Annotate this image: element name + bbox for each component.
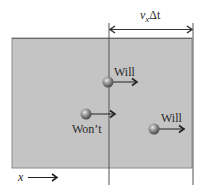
- interval-label: vxΔt: [140, 8, 161, 24]
- gray-region: [12, 38, 192, 168]
- particle-label: Will: [114, 65, 136, 79]
- diagram-canvas: vxΔt Will Won’t Will x: [0, 0, 208, 194]
- interval-arrow: [110, 26, 192, 33]
- x-axis-indicator: x: [17, 170, 57, 184]
- ball-icon: [81, 109, 92, 120]
- axis-label: x: [17, 170, 24, 184]
- ball-icon: [103, 77, 114, 88]
- particle-label: Won’t: [72, 122, 102, 136]
- particle-label: Will: [161, 111, 183, 125]
- ball-icon: [149, 124, 160, 135]
